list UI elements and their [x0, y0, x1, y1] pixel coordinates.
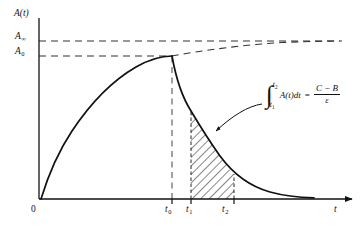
fraction-denominator: ε — [325, 95, 328, 104]
figure-root: A(t) A∞ A0 0 t0 t1 t2 t ∫ t2 t1 A(t)dt = — [0, 0, 364, 228]
integral-limits: t2 t1 — [273, 82, 283, 108]
annotation-pointer-arrow — [216, 104, 262, 131]
a-zero-subscript: 0 — [21, 50, 25, 57]
y-tick-label-a-infinity: A∞ — [15, 32, 26, 43]
integral-upper-limit: t2 — [273, 80, 278, 90]
t-zero-subscript: 0 — [168, 208, 172, 215]
t-one-subscript: 1 — [189, 208, 193, 215]
x-tick-label-t-zero: t0 — [165, 205, 171, 216]
integral-lower-limit: t1 — [270, 100, 275, 110]
x-tick-label-t-one: t1 — [186, 205, 192, 216]
integral-symbol-group: ∫ t2 t1 — [266, 82, 283, 108]
fraction-numerator: C − B — [314, 84, 340, 95]
integrand-expression: A(t)dt — [280, 90, 301, 101]
equals-sign: = — [305, 90, 310, 101]
plot-canvas — [0, 0, 364, 228]
y-axis-title: A(t) — [14, 9, 29, 19]
asymptotic-dashed-curve — [172, 41, 342, 56]
integral-area — [191, 111, 234, 199]
result-fraction: C − B ε — [314, 84, 340, 105]
t-two-subscript: 2 — [225, 208, 229, 215]
a-infinity-subscript: ∞ — [21, 35, 26, 42]
rise-curve — [41, 56, 172, 199]
origin-label: 0 — [31, 205, 36, 215]
x-tick-label-t-two: t2 — [222, 205, 228, 216]
y-tick-label-a-zero: A0 — [15, 47, 25, 58]
integral-annotation: ∫ t2 t1 A(t)dt = C − B ε — [266, 82, 340, 108]
x-axis-title: t — [334, 205, 337, 215]
